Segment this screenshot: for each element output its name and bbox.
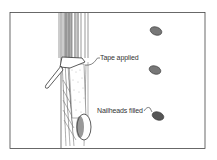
drywall-illustration [0, 0, 217, 160]
joint-tape [69, 64, 86, 118]
tape-applied-label: Tape applied [100, 54, 139, 61]
joint-hatching [59, 13, 88, 58]
joint-shadow [64, 13, 72, 58]
nailhead-leader-line [144, 107, 152, 112]
tape-leader-line [85, 58, 100, 65]
nailheads [148, 25, 165, 122]
illustration-frame [10, 13, 205, 149]
nailheads-filled-label: Nailheads filled [97, 107, 143, 114]
joint-shadow-light [74, 13, 79, 58]
tape-roll [76, 114, 91, 140]
